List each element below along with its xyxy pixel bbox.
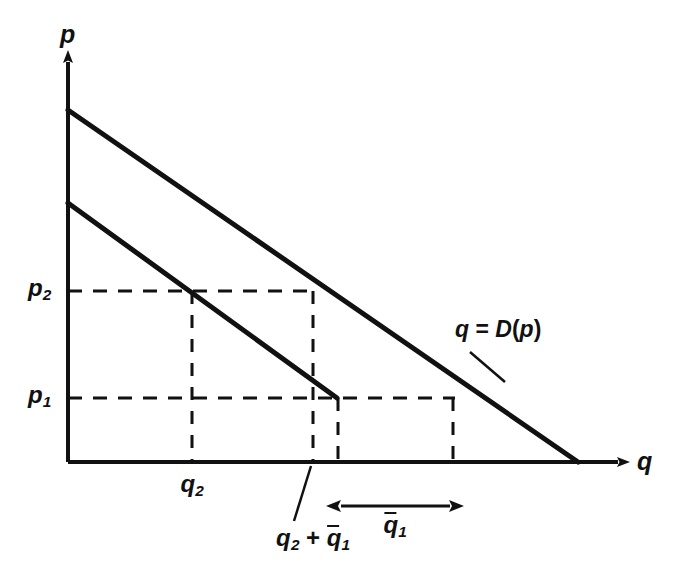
demand-label-p: p [520, 316, 534, 342]
q2-plus-base2: q [327, 524, 342, 551]
price-axis-label: p [60, 22, 75, 47]
q2-plus-sub1: 2 [291, 536, 300, 553]
figure-canvas [0, 0, 679, 581]
qbar1-overbar-group: q [383, 513, 398, 537]
p1-subscript: 1 [43, 393, 52, 410]
q2-plus-overbar-group: q [327, 526, 342, 550]
qbar1-overbar [384, 512, 396, 514]
demand-curve-original [68, 110, 578, 462]
demand-label-open-paren: ( [512, 316, 520, 342]
demand-curve-label: q = D(p) [455, 318, 541, 341]
q2-plus-qbar1-label-leader [294, 466, 311, 521]
demand-curve-label-leader [470, 352, 505, 382]
price-tick-label-p1: p1 [28, 383, 51, 407]
demand-label-D: D [495, 316, 512, 342]
p2-base: p [28, 274, 43, 301]
qbar1-base: q [383, 511, 398, 538]
q2-plus-operator: + [299, 524, 326, 551]
p1-base: p [28, 381, 43, 408]
quantity-axis-label: q [637, 449, 652, 474]
q2-plus-overbar [327, 525, 339, 527]
price-tick-label-p2: p2 [28, 276, 51, 300]
quantity-tick-label-q2: q2 [180, 472, 203, 496]
demand-label-equals: = [469, 316, 495, 342]
q2-plus-base1: q [276, 524, 291, 551]
qbar1-subscript: 1 [398, 523, 407, 540]
q2-plus-qbar1-label: q2 + q1 [276, 526, 350, 550]
q2-plus-sub2: 1 [341, 536, 350, 553]
q2-base: q [180, 470, 195, 497]
qbar1-segment-label: q1 [383, 513, 406, 537]
demand-label-q: q [455, 316, 469, 342]
demand-curve-figure: p q p1 p2 q2 q = D(p) q1 q2 + q1 [0, 0, 679, 581]
p2-subscript: 2 [43, 286, 52, 303]
demand-curve-shifted [68, 203, 337, 398]
q2-subscript: 2 [195, 482, 204, 499]
demand-label-close-paren: ) [534, 316, 542, 342]
